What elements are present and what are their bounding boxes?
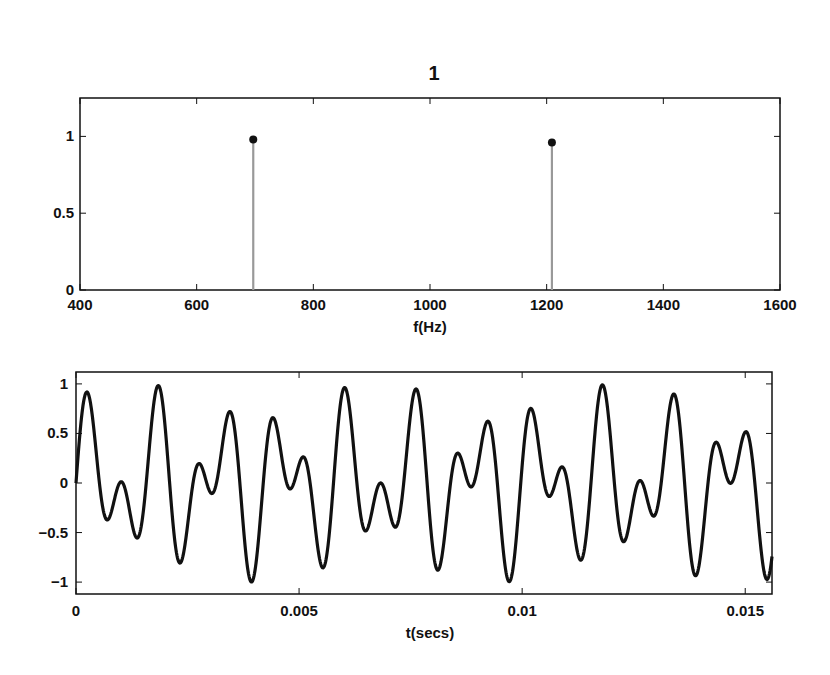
x-tick-label: 1000 xyxy=(413,296,446,313)
x-tick-label: 0.01 xyxy=(508,602,537,619)
spectrum-axes-frame xyxy=(80,98,780,290)
waveform-line xyxy=(76,385,772,582)
y-tick-label: 1 xyxy=(66,127,74,144)
x-tick-label: 1400 xyxy=(647,296,680,313)
y-tick-label: 0.5 xyxy=(47,424,68,441)
stem-marker xyxy=(548,139,556,147)
x-tick-label: 800 xyxy=(301,296,326,313)
plot-title: 1 xyxy=(428,62,439,84)
stem-marker xyxy=(249,135,257,143)
x-tick-label: 600 xyxy=(184,296,209,313)
x-tick-label: 1600 xyxy=(763,296,796,313)
y-tick-label: 1 xyxy=(60,375,68,392)
y-tick-label: 0.5 xyxy=(53,204,74,221)
y-tick-label: −1 xyxy=(51,573,68,590)
x-tick-label: 0.005 xyxy=(280,602,318,619)
y-tick-label: −0.5 xyxy=(38,524,68,541)
spectrum-x-ticks: 4006008001000120014001600 xyxy=(67,98,796,313)
x-axis-label-time: t(secs) xyxy=(406,624,454,641)
x-tick-label: 400 xyxy=(67,296,92,313)
x-tick-label: 1200 xyxy=(530,296,563,313)
y-tick-label: 0 xyxy=(66,281,74,298)
figure: 1 4006008001000120014001600 00.51 f(Hz) … xyxy=(0,0,830,675)
spectrum-stems xyxy=(249,135,556,290)
waveform-plot: 00.0050.010.015 −1−0.500.51 t(secs) xyxy=(38,372,772,641)
x-tick-label: 0 xyxy=(72,602,80,619)
x-axis-label-frequency: f(Hz) xyxy=(413,318,446,335)
spectrum-y-ticks: 00.51 xyxy=(53,127,780,298)
y-tick-label: 0 xyxy=(60,474,68,491)
spectrum-plot: 1 4006008001000120014001600 00.51 f(Hz) xyxy=(53,62,797,335)
x-tick-label: 0.015 xyxy=(726,602,764,619)
